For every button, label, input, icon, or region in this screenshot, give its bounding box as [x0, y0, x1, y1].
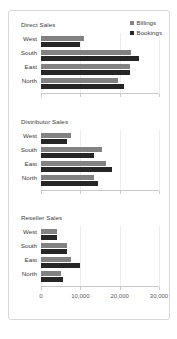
category-label: East [25, 63, 37, 70]
panel-title: Reseller Sales [21, 214, 62, 221]
bar-billings [41, 133, 71, 138]
category-label: South [21, 49, 37, 56]
bar-billings [41, 243, 67, 248]
bar-group: North [41, 271, 159, 285]
bar-billings [41, 257, 71, 262]
x-axis-tickmarks [41, 287, 159, 290]
tick-mark [159, 191, 160, 194]
category-label: West [23, 228, 37, 235]
bar-bookings [41, 42, 80, 47]
bar-group: North [41, 78, 159, 92]
tick-mark [80, 94, 81, 97]
tick-mark [120, 94, 121, 97]
bar-billings [41, 64, 130, 69]
chart-panel-distributor-sales: Distributor Sales WestSouthEastNorth [9, 112, 171, 208]
bar-group: West [41, 133, 159, 147]
bar-billings [41, 50, 131, 55]
chart-panel-direct-sales: Direct Sales Billings Bookings WestSouth… [9, 15, 171, 112]
legend-item-billings: Billings [130, 19, 162, 26]
grid-line [159, 33, 160, 95]
bar-billings [41, 161, 106, 166]
bar-bookings [41, 263, 80, 268]
category-label: West [23, 132, 37, 139]
plot-area: WestSouthEastNorth010,00020,00030,000 [41, 226, 159, 288]
bar-group: East [41, 161, 159, 175]
bar-group: West [41, 229, 159, 243]
bar-bookings [41, 84, 124, 89]
tick-mark [41, 191, 42, 194]
bar-bookings [41, 249, 67, 254]
bar-bookings [41, 235, 57, 240]
chart-panel-reseller-sales: Reseller Sales WestSouthEastNorth010,000… [9, 208, 171, 320]
tick-label: 10,000 [71, 293, 89, 299]
plot-area: WestSouthEastNorth [41, 130, 159, 192]
bar-billings [41, 229, 57, 234]
bar-group: South [41, 243, 159, 257]
category-label: West [23, 35, 37, 42]
panel-title: Direct Sales [21, 21, 56, 28]
category-label: South [21, 146, 37, 153]
bar-bookings [41, 181, 98, 186]
tick-label: 0 [39, 293, 42, 299]
bar-bookings [41, 56, 139, 61]
category-label: North [22, 77, 37, 84]
bar-group: East [41, 257, 159, 271]
legend-label: Billings [137, 19, 157, 26]
bar-group: West [41, 36, 159, 50]
legend-swatch-icon [130, 21, 134, 25]
bar-group: South [41, 147, 159, 161]
bar-bookings [41, 70, 130, 75]
bar-billings [41, 78, 118, 83]
tick-label: 30,000 [150, 293, 168, 299]
plot-area: WestSouthEastNorth [41, 33, 159, 95]
tick-mark [41, 94, 42, 97]
bar-billings [41, 36, 84, 41]
category-label: North [22, 174, 37, 181]
tick-label: 20,000 [110, 293, 128, 299]
bar-bookings [41, 277, 63, 282]
bar-group: East [41, 64, 159, 78]
bar-group: South [41, 50, 159, 64]
bar-billings [41, 175, 94, 180]
bar-bookings [41, 167, 112, 172]
panel-title: Distributor Sales [21, 118, 68, 125]
x-axis-tickmarks [41, 191, 159, 194]
grid-line [159, 226, 160, 288]
tick-mark [120, 287, 121, 290]
bar-bookings [41, 139, 67, 144]
bar-bookings [41, 153, 94, 158]
category-label: South [21, 242, 37, 249]
category-label: East [25, 160, 37, 167]
grid-line [159, 130, 160, 192]
x-axis-tickmarks [41, 94, 159, 97]
tick-mark [80, 191, 81, 194]
bar-billings [41, 271, 61, 276]
category-label: East [25, 256, 37, 263]
tick-mark [41, 287, 42, 290]
tick-mark [80, 287, 81, 290]
chart-card: Direct Sales Billings Bookings WestSouth… [8, 10, 170, 320]
tick-mark [159, 94, 160, 97]
category-label: North [22, 270, 37, 277]
tick-mark [159, 287, 160, 290]
bar-billings [41, 147, 102, 152]
tick-mark [120, 191, 121, 194]
bar-group: North [41, 175, 159, 189]
